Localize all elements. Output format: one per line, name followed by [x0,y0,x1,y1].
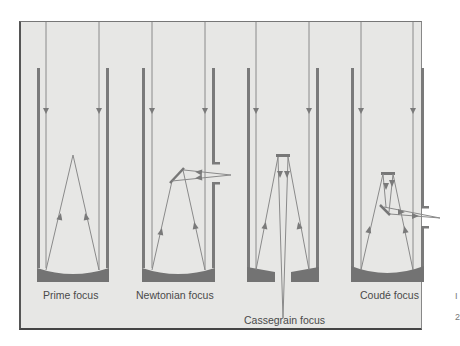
arrow-down-icon [149,108,155,114]
tube-wall-left [37,68,40,268]
arrow-down-icon [96,108,102,114]
primary-mirror [142,268,215,282]
cassegrain-focus-telescope [247,22,319,318]
margin-mark: 2 [455,312,460,322]
coude-focus-telescope [351,22,440,282]
arrow-right-icon [195,175,203,182]
prime-focus-telescope [37,22,109,282]
margin-mark: I [455,291,458,301]
secondary-mirror [276,154,290,157]
label-newtonian-focus: Newtonian focus [136,289,214,301]
label-prime-focus: Prime focus [43,289,98,301]
primary-mirror-left [247,267,275,282]
label-cassegrain-focus: Cassegrain focus [244,314,325,326]
newtonian-focus-telescope [142,22,231,282]
primary-mirror [37,268,109,282]
label-coude-focus: Coudé focus [360,289,419,301]
arrow-right-icon [195,169,203,176]
primary-mirror-right [291,267,319,282]
arrow-down-icon [202,108,208,114]
tube-wall-right [106,68,109,268]
arrow-down-icon [43,108,49,114]
arrow-up-icon [56,212,63,220]
tertiary-mirror [380,205,390,215]
